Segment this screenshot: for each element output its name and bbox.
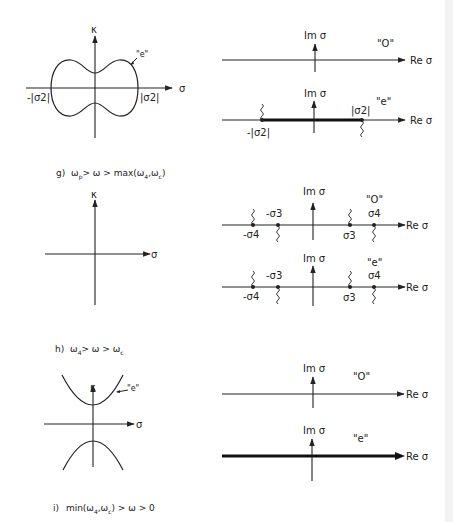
im-sigma-label: Im σ (304, 30, 327, 41)
kappa-axis-label: κ (90, 382, 96, 393)
parity-label-even: "e" (376, 96, 391, 107)
re-sigma-label: Re σ (410, 115, 433, 126)
curve-label-even: "e" (127, 384, 139, 393)
im-sigma-label: Im σ (303, 253, 326, 264)
sigma2-label: |σ2| (351, 105, 370, 117)
kappa-axis-label: κ (91, 24, 97, 35)
neg-sigma3-label: -σ3 (266, 270, 282, 281)
sigma-plane-g-odd: Im σ Re σ "O" (222, 30, 433, 72)
branch-squiggle-icon (361, 121, 364, 137)
kappa-sigma-plot-h: σ κ (45, 189, 158, 305)
re-sigma-label: Re σ (406, 220, 429, 231)
sigma-plane-h-odd: Im σ Re σ "O" -σ4 -σ3 σ3 σ4 (222, 186, 429, 242)
sigma-axis-label: σ (151, 249, 158, 260)
sigma-axis-label: σ (136, 419, 143, 430)
axis-arrow-icon (395, 452, 405, 460)
sigma4-label: σ4 (368, 208, 381, 219)
re-sigma-label: Re σ (406, 282, 429, 293)
branch-squiggle-icon (261, 104, 264, 120)
re-sigma-label: Re σ (406, 451, 429, 462)
branch-squiggle-icon (349, 271, 352, 287)
sigma3-label: σ3 (343, 230, 356, 241)
sigma-plane-g-even: Im σ Re σ "e" -|σ2| |σ2| (222, 88, 433, 139)
caption-i: i) min(ω4,ωc) > ω > 0 (53, 503, 155, 515)
branch-squiggle-icon (277, 226, 280, 242)
section-g: σ κ "e" -|σ2| |σ2| Im σ Re σ "O" (26, 24, 433, 181)
dispersion-diagram-figure: σ κ "e" -|σ2| |σ2| Im σ Re σ "O" (0, 0, 453, 522)
im-sigma-label: Im σ (303, 425, 326, 436)
parity-label-odd: "O" (353, 371, 370, 382)
neg-sigma4-label: -σ4 (243, 229, 259, 240)
im-sigma-label: Im σ (303, 186, 326, 197)
sigma-plane-i-even: Im σ Re σ "e" (222, 425, 429, 481)
sigma-plane-i-odd: Im σ Re σ "O" (222, 363, 429, 408)
right-intercept-label: |σ2| (140, 92, 159, 104)
parity-label-odd: "O" (377, 38, 394, 49)
im-sigma-label: Im σ (304, 88, 327, 99)
re-sigma-label: Re σ (406, 389, 429, 400)
sigma4-label: σ4 (368, 270, 381, 281)
parity-label-even: "e" (367, 257, 382, 268)
im-sigma-label: Im σ (303, 363, 326, 374)
neg-sigma3-label: -σ3 (266, 208, 282, 219)
page-edge-shadow (445, 0, 453, 522)
pointer-arrow-icon (116, 390, 120, 393)
section-h: σ κ Im σ Re σ "O" -σ4 -σ3 σ3 σ4 (45, 186, 429, 356)
sigma3-label: σ3 (343, 292, 356, 303)
parity-label-even: "e" (353, 433, 368, 444)
caption-g: g) ωp> ω > max(ω4,ωc) (56, 168, 165, 181)
branch-squiggle-icon (373, 288, 376, 304)
branch-squiggle-icon (252, 209, 255, 225)
branch-squiggle-icon (252, 271, 255, 287)
sigma-plane-h-even: Im σ Re σ "e" -σ4 -σ3 σ3 σ4 (222, 253, 429, 306)
kappa-sigma-plot-i: σ κ "e" (44, 375, 143, 470)
parity-label-odd: "O" (366, 194, 383, 205)
curve-label-even: "e" (136, 50, 148, 59)
branch-squiggle-icon (349, 209, 352, 225)
branch-squiggle-icon (277, 288, 280, 304)
section-i: σ κ "e" Im σ Re σ "O" Im σ Re σ "e" (44, 363, 429, 515)
kappa-axis-label: κ (91, 189, 97, 200)
neg-sigma4-label: -σ4 (243, 291, 259, 302)
branch-squiggle-icon (373, 226, 376, 242)
re-sigma-label: Re σ (410, 55, 433, 66)
caption-h: h) ω4> ω > ωc (55, 344, 124, 356)
left-intercept-label: -|σ2| (27, 92, 50, 104)
neg-sigma2-label: -|σ2| (247, 127, 270, 139)
kappa-sigma-plot-g: σ κ "e" -|σ2| |σ2| (26, 24, 186, 138)
sigma-axis-label: σ (179, 83, 186, 94)
